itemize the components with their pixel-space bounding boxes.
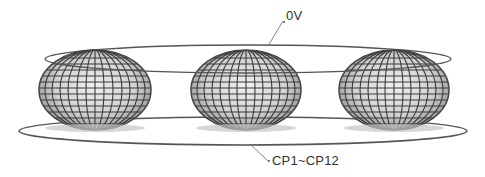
bottom-ring-leader-line (250, 144, 268, 161)
mesh-sphere-right (334, 50, 454, 132)
mesh-sphere-center (186, 50, 306, 132)
bottom-ring-label: CP1~CP12 (272, 153, 339, 168)
top-ring-label-dot (283, 21, 285, 23)
electrode-ring-diagram (0, 0, 485, 177)
top-ring-leader-line (268, 21, 283, 46)
bottom-ring-front (19, 131, 467, 145)
top-ring-label: 0V (286, 8, 302, 23)
bottom-ring-label-dot (268, 160, 270, 162)
